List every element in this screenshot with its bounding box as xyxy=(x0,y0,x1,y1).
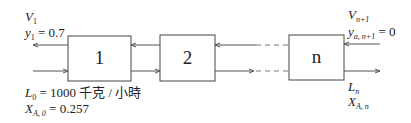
stage-1-label: 1 xyxy=(68,47,131,69)
x-symbol: X xyxy=(25,101,33,116)
l-value: = 1000 千克 / 小時 xyxy=(36,85,141,100)
x-symbol: X xyxy=(348,94,356,109)
v-symbol: V xyxy=(348,7,356,22)
y-value: = 0 xyxy=(375,24,395,39)
liquid-in-composition: XA, 0 = 0.257 xyxy=(25,102,89,121)
x-value: = 0.257 xyxy=(46,101,89,116)
vapor-out-composition: y1 = 0.7 xyxy=(25,26,65,45)
x-subscript: A, 0 xyxy=(33,109,46,118)
v-subscript: n+1 xyxy=(356,15,369,24)
stage-2-label: 2 xyxy=(160,47,215,69)
v-symbol: V xyxy=(25,9,33,24)
stage-n-label: n xyxy=(289,46,344,68)
x-subscript: A, n xyxy=(356,102,369,111)
y-value: = 0.7 xyxy=(35,25,65,40)
vapor-in-composition: ya, n+1 = 0 xyxy=(348,25,396,44)
y-subscript: a, n+1 xyxy=(354,32,375,41)
liquid-out-composition: XA, n xyxy=(348,95,369,114)
